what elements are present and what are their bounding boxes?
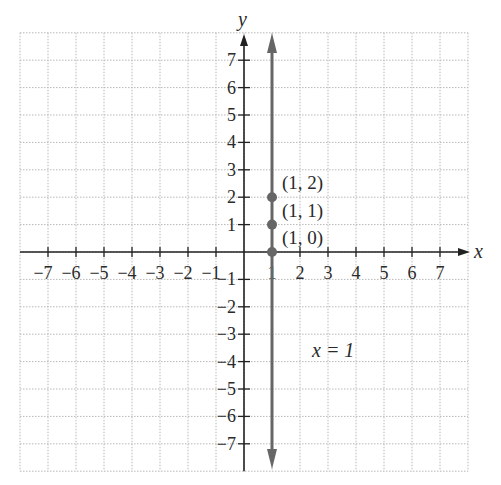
y-tick-label: 1 (227, 215, 236, 235)
x-tick-label: 2 (296, 263, 305, 283)
x-tick-label: −2 (173, 263, 192, 283)
y-tick-label: −1 (217, 269, 236, 289)
data-point (267, 247, 277, 257)
y-tick-label: 7 (227, 50, 236, 70)
y-tick-label: 2 (227, 187, 236, 207)
up-arrow-icon (267, 33, 277, 53)
equation-label: x = 1 (311, 339, 354, 361)
point-label: (1, 0) (282, 227, 323, 249)
x-tick-label: 3 (324, 263, 333, 283)
x-tick-label: −6 (61, 263, 80, 283)
y-tick-label: −2 (217, 297, 236, 317)
plotted-points: (1, 2)(1, 1)(1, 0) (267, 172, 323, 257)
data-point (267, 220, 277, 230)
y-tick-label: −7 (217, 434, 236, 454)
x-tick-label: −5 (89, 263, 108, 283)
axes (20, 34, 470, 471)
y-tick-label: −6 (217, 406, 236, 426)
y-tick-label: 3 (227, 160, 236, 180)
coordinate-plane: −7−6−5−4−3−2−11234567−7−6−5−4−3−2−112345… (0, 0, 501, 485)
y-axis-arrow-icon (240, 34, 248, 46)
x-tick-label: 7 (436, 263, 445, 283)
down-arrow-icon (267, 449, 277, 469)
y-tick-label: −3 (217, 324, 236, 344)
y-tick-label: 6 (227, 78, 236, 98)
x-tick-label: −3 (145, 263, 164, 283)
y-tick-label: −4 (217, 352, 236, 372)
x-tick-label: −7 (33, 263, 52, 283)
point-label: (1, 2) (282, 172, 323, 194)
y-tick-label: −5 (217, 379, 236, 399)
data-point (267, 192, 277, 202)
equation-text: x = 1 (311, 339, 354, 361)
x-tick-label: 6 (408, 263, 417, 283)
x-axis-label: x (473, 240, 483, 262)
y-tick-label: 4 (227, 132, 236, 152)
x-tick-label: 4 (352, 263, 361, 283)
y-axis-label: y (236, 8, 247, 31)
point-label: (1, 1) (282, 200, 323, 222)
x-tick-label: −4 (117, 263, 136, 283)
y-tick-label: 5 (227, 105, 236, 125)
x-tick-label: 5 (380, 263, 389, 283)
